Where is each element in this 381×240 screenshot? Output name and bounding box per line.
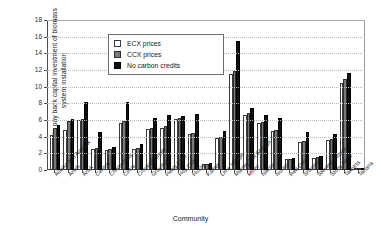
bar-group — [285, 20, 296, 170]
grid-line — [47, 103, 365, 104]
bar-group — [312, 20, 323, 170]
y-tick-label: 18 — [16, 16, 42, 23]
bar-group — [354, 20, 365, 170]
x-axis-title: Community — [0, 215, 381, 222]
y-tick-label: 0 — [16, 166, 42, 173]
y-tick-mark — [44, 20, 47, 21]
y-tick-mark — [44, 53, 47, 54]
grid-line — [47, 87, 365, 88]
legend-swatch-ecx-icon — [114, 40, 121, 47]
bar-group — [298, 20, 309, 170]
grid-line — [47, 120, 365, 121]
bar-group — [271, 20, 282, 170]
legend-item-ccx: CCX prices — [114, 49, 218, 60]
legend-item-ecx: ECX prices — [114, 38, 218, 49]
y-tick-mark — [44, 153, 47, 154]
legend-swatch-ccx-icon — [114, 51, 121, 58]
bar-group — [326, 20, 337, 170]
legend-swatch-nocc-icon — [114, 62, 121, 69]
y-tick-label: 4 — [16, 133, 42, 140]
bar-group — [63, 20, 74, 170]
y-tick-mark — [44, 87, 47, 88]
y-tick-label: 16 — [16, 33, 42, 40]
legend-label-nocc: No carbon credits — [127, 62, 180, 69]
legend-label-ecx: ECX prices — [127, 40, 161, 47]
y-tick-mark — [44, 170, 47, 171]
grid-line — [47, 137, 365, 138]
bar-group — [243, 20, 254, 170]
grid-line — [47, 20, 365, 21]
y-tick-mark — [44, 70, 47, 71]
y-tick-label: 12 — [16, 66, 42, 73]
legend-label-ccx: CCX prices — [127, 51, 161, 58]
bar-group — [229, 20, 240, 170]
y-tick-mark — [44, 37, 47, 38]
legend-item-nocc: No carbon credits — [114, 60, 218, 71]
y-tick-label: 14 — [16, 49, 42, 56]
y-tick-label: 6 — [16, 116, 42, 123]
y-tick-label: 2 — [16, 149, 42, 156]
bar-group — [50, 20, 61, 170]
y-tick-mark — [44, 120, 47, 121]
y-tick-mark — [44, 137, 47, 138]
bar-nocc — [278, 118, 282, 171]
chart-legend: ECX prices CCX prices No carbon credits — [108, 34, 224, 75]
bar-nocc — [57, 125, 61, 170]
grid-line — [47, 153, 365, 154]
y-tick-label: 8 — [16, 99, 42, 106]
chart-figure: Years to pay back capital investment of … — [0, 0, 381, 240]
bar-group — [91, 20, 102, 170]
y-tick-mark — [44, 103, 47, 104]
y-tick-label: 10 — [16, 83, 42, 90]
